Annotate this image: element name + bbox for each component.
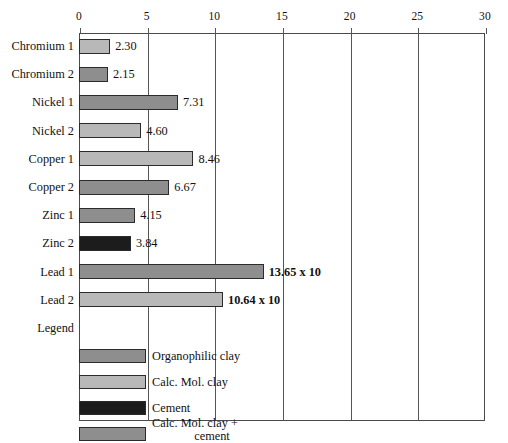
figure: 051015202530 Chromium 12.30Chromium 22.1… (0, 0, 508, 443)
legend-swatch (79, 401, 146, 415)
legend-swatch (79, 427, 146, 441)
x-axis-tick-label: 10 (208, 10, 220, 22)
category-label: Nickel 1 (32, 96, 74, 108)
legend-swatch (79, 349, 146, 363)
legend-label: Cement (152, 402, 190, 415)
bar-value-label: 2.15 (113, 68, 135, 80)
bar-value-label: 4.60 (146, 125, 168, 137)
category-label: Copper 2 (29, 181, 74, 193)
legend-swatch (79, 375, 146, 389)
bar-value-label: 3.84 (136, 237, 158, 249)
bar (79, 95, 178, 110)
x-axis-tick-label: 0 (76, 10, 82, 22)
legend-label: Organophilic clay (152, 350, 240, 363)
legend-label: Calc. Mol. clay (152, 376, 228, 389)
bar-value-label: 7.31 (183, 96, 205, 108)
bar-value-label: 8.46 (198, 153, 220, 165)
x-axis-tick (486, 28, 487, 34)
category-label: Lead 2 (40, 294, 74, 306)
bar-value-label: 13.65 x 10 (269, 266, 321, 278)
category-label: Zinc 1 (42, 209, 74, 221)
category-label: Chromium 1 (11, 40, 74, 52)
bar (79, 151, 193, 166)
gridline (418, 34, 419, 420)
legend-label: Calc. Mol. clay +cement (152, 417, 272, 443)
gridline (148, 34, 149, 420)
bar (79, 180, 169, 195)
category-label: Copper 1 (29, 153, 74, 165)
bar (79, 39, 110, 54)
bar (79, 123, 141, 138)
legend-row-label: Legend (37, 322, 74, 334)
bar-value-label: 10.64 x 10 (228, 294, 280, 306)
bar-value-label: 4.15 (140, 209, 162, 221)
bar (79, 264, 264, 279)
bar (79, 236, 131, 251)
x-axis-tick-label: 30 (479, 10, 491, 22)
gridline (351, 34, 352, 420)
legend-label-line1: Calc. Mol. clay + (152, 416, 238, 430)
category-label: Lead 1 (40, 266, 74, 278)
bar-value-label: 6.67 (174, 181, 196, 193)
bar (79, 67, 108, 82)
bar (79, 208, 135, 223)
x-axis-tick-label: 15 (276, 10, 288, 22)
bar (79, 292, 223, 307)
category-label: Chromium 2 (11, 68, 74, 80)
x-axis-tick-label: 5 (144, 10, 150, 22)
x-axis-tick (80, 28, 81, 34)
gridline (283, 34, 284, 420)
x-axis-tick-label: 20 (344, 10, 356, 22)
category-label: Zinc 2 (42, 237, 74, 249)
category-label: Nickel 2 (32, 125, 74, 137)
x-axis-tick-label: 25 (411, 10, 423, 22)
bar-value-label: 2.30 (115, 40, 137, 52)
legend-label-line2: cement (152, 430, 272, 443)
